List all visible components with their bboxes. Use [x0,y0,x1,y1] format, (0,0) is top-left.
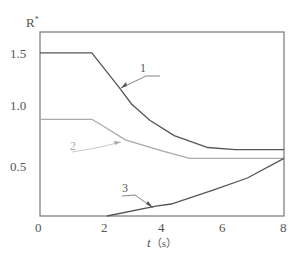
y-tick-0.5: 0.5 [10,159,26,174]
curve-label-1: 1 [140,61,146,75]
x-tick-0: 0 [35,220,42,235]
y-axis-label: R* [26,15,39,30]
leader-line-1 [121,76,160,88]
arrow-icon [114,141,121,145]
curve-label-3: 3 [122,181,128,195]
y-tick-1.0: 1.0 [10,98,26,113]
curve-2 [40,119,284,158]
y-tick-1.5: 1.5 [10,46,26,61]
curve-label-2: 2 [70,139,76,153]
plot-frame [40,32,284,216]
x-axis-label: t（s） [147,235,177,250]
arrow-icon [121,82,127,88]
x-tick-4: 4 [158,220,165,235]
chart: 1.5 1.0 0.5 R* 0 2 4 6 8 t（s） 1 2 3 [0,0,302,262]
leader-line-2 [72,142,121,152]
curve-3 [107,158,284,216]
x-tick-6: 6 [219,220,226,235]
x-tick-2: 2 [101,220,108,235]
curve-1 [40,53,284,150]
x-tick-8: 8 [280,220,287,235]
